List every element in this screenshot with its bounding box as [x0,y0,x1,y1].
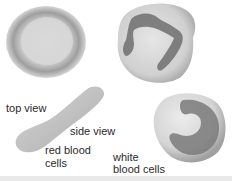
top-view-label: top view [6,102,46,114]
red-blood-cell-side-view [16,87,104,153]
white-blood-cells-label-line1: white [113,151,139,163]
white-blood-cells-label-line2: blood cells [113,163,165,175]
red-blood-cell-top-view [6,6,86,78]
white-blood-cell-kidney-nucleus [154,93,226,162]
white-blood-cell-multilobed [118,4,196,83]
red-blood-cells-label-line1: red blood [45,144,91,156]
bottom-divider [0,176,232,181]
red-blood-cells-label-line2: cells [45,157,67,169]
side-view-label: side view [70,125,115,137]
blood-cells-diagram: top view side view red blood cells white… [0,0,232,181]
